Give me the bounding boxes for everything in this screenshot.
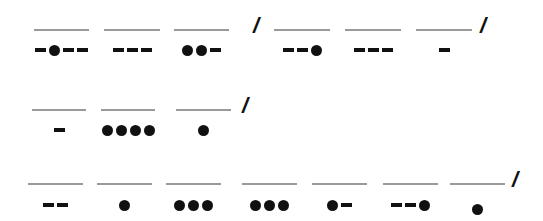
morse-dot-icon bbox=[264, 200, 275, 211]
morse-letter bbox=[312, 199, 367, 211]
answer-blank-line[interactable] bbox=[34, 29, 89, 31]
morse-dot-icon bbox=[419, 200, 430, 211]
morse-letter bbox=[97, 199, 152, 211]
answer-blank-line[interactable] bbox=[416, 29, 472, 31]
morse-dash-icon bbox=[113, 48, 124, 52]
morse-dot-icon bbox=[49, 45, 60, 56]
morse-dash-icon bbox=[127, 48, 138, 52]
word-separator-slash: / bbox=[512, 169, 518, 191]
morse-dash-icon bbox=[54, 128, 65, 132]
morse-dash-icon bbox=[341, 203, 352, 207]
morse-letter bbox=[345, 44, 401, 56]
answer-blank-line[interactable] bbox=[32, 109, 86, 111]
morse-dot-icon bbox=[116, 125, 127, 136]
morse-dot-icon bbox=[130, 125, 141, 136]
morse-dot-icon bbox=[102, 125, 113, 136]
morse-dot-icon bbox=[196, 45, 207, 56]
answer-blank-line[interactable] bbox=[450, 183, 505, 185]
word-separator-slash: / bbox=[242, 95, 248, 117]
morse-dot-icon bbox=[182, 45, 193, 56]
morse-dash-icon bbox=[354, 48, 365, 52]
morse-letter bbox=[28, 199, 83, 211]
morse-letter bbox=[101, 124, 155, 136]
morse-dash-icon bbox=[63, 48, 74, 52]
answer-blank-line[interactable] bbox=[274, 29, 330, 31]
morse-letter bbox=[174, 44, 229, 56]
morse-dash-icon bbox=[405, 203, 416, 207]
morse-letter bbox=[242, 199, 297, 211]
morse-dash-icon bbox=[43, 203, 54, 207]
morse-dash-icon bbox=[141, 48, 152, 52]
word-separator-slash: / bbox=[480, 15, 486, 37]
morse-dot-icon bbox=[174, 200, 185, 211]
morse-dot-icon bbox=[119, 200, 130, 211]
morse-dot-icon bbox=[202, 200, 213, 211]
word-separator-slash: / bbox=[253, 15, 259, 37]
answer-blank-line[interactable] bbox=[28, 183, 83, 185]
morse-dot-icon bbox=[144, 125, 155, 136]
morse-letter bbox=[416, 44, 472, 56]
answer-blank-line[interactable] bbox=[312, 183, 367, 185]
morse-dash-icon bbox=[382, 48, 393, 52]
answer-blank-line[interactable] bbox=[166, 183, 221, 185]
answer-blank-line[interactable] bbox=[242, 183, 297, 185]
answer-blank-line[interactable] bbox=[383, 183, 438, 185]
morse-letter bbox=[32, 124, 86, 136]
morse-dot-icon bbox=[472, 204, 483, 215]
morse-dash-icon bbox=[210, 48, 221, 52]
answer-blank-line[interactable] bbox=[176, 109, 231, 111]
morse-letter bbox=[166, 199, 221, 211]
morse-dash-icon bbox=[368, 48, 379, 52]
answer-blank-line[interactable] bbox=[345, 29, 401, 31]
morse-letter bbox=[450, 203, 505, 215]
morse-letter bbox=[176, 124, 231, 136]
morse-letter bbox=[383, 199, 438, 211]
morse-dash-icon bbox=[77, 48, 88, 52]
morse-dash-icon bbox=[283, 48, 294, 52]
morse-dash-icon bbox=[439, 48, 450, 52]
morse-letter bbox=[104, 44, 160, 56]
morse-dot-icon bbox=[327, 200, 338, 211]
answer-blank-line[interactable] bbox=[97, 183, 152, 185]
answer-blank-line[interactable] bbox=[174, 29, 229, 31]
morse-dot-icon bbox=[188, 200, 199, 211]
morse-dash-icon bbox=[57, 203, 68, 207]
morse-dot-icon bbox=[278, 200, 289, 211]
morse-dot-icon bbox=[198, 125, 209, 136]
morse-dash-icon bbox=[35, 48, 46, 52]
answer-blank-line[interactable] bbox=[104, 29, 160, 31]
morse-dash-icon bbox=[391, 203, 402, 207]
morse-dash-icon bbox=[297, 48, 308, 52]
morse-letter bbox=[34, 44, 89, 56]
morse-dot-icon bbox=[250, 200, 261, 211]
answer-blank-line[interactable] bbox=[101, 109, 155, 111]
morse-letter bbox=[274, 44, 330, 56]
morse-dot-icon bbox=[311, 45, 322, 56]
